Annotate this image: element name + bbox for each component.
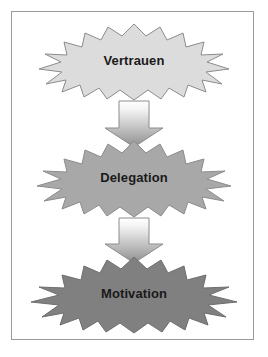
block-arrow-down-1 — [105, 101, 163, 147]
node-label-vertrauen: Vertrauen — [0, 53, 268, 68]
node-label-delegation: Delegation — [0, 170, 268, 185]
block-arrow-down-2 — [105, 218, 163, 263]
diagram-page: Vertrauen Delegation Motivation — [0, 0, 268, 357]
arrow-delegation-motivation — [105, 218, 163, 263]
node-label-motivation: Motivation — [0, 286, 268, 301]
arrow-vertrauen-delegation — [105, 101, 163, 147]
